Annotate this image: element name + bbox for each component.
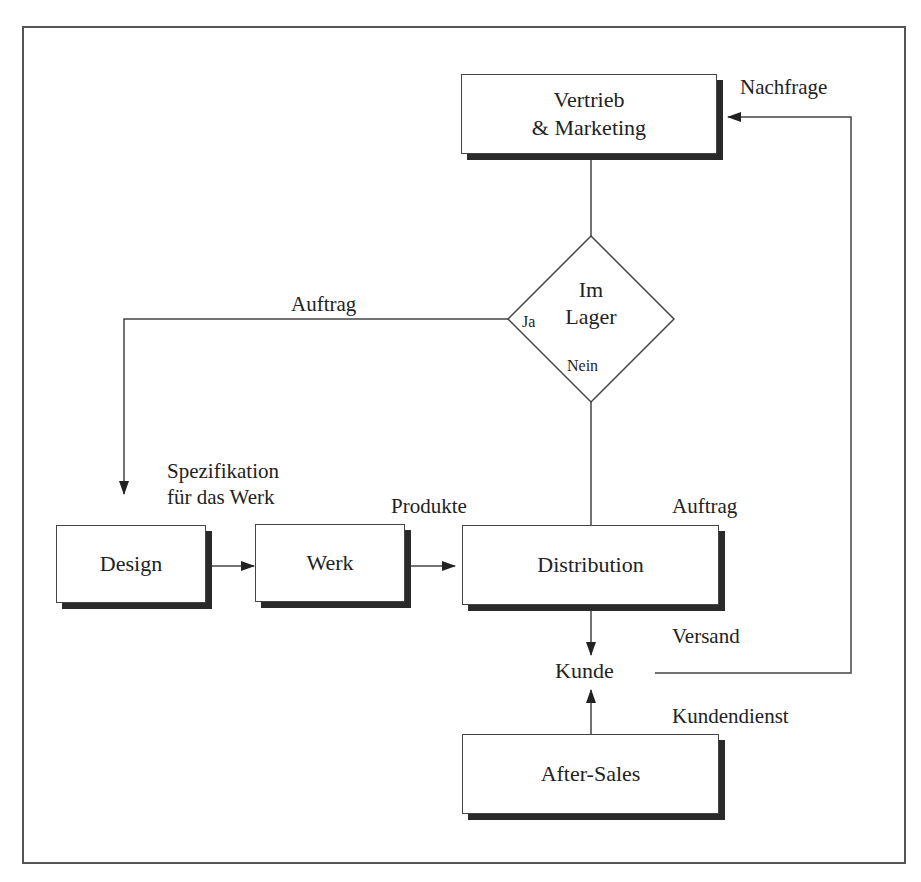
- node-design-label: Design: [100, 550, 162, 578]
- node-distribution-label: Distribution: [537, 551, 643, 579]
- node-werk: Werk: [255, 524, 405, 602]
- node-werk-label: Werk: [306, 549, 353, 577]
- decision-yes-label: Ja: [522, 310, 535, 334]
- label-produkte: Produkte: [391, 494, 467, 518]
- node-vertrieb-line2: & Marketing: [532, 114, 646, 142]
- label-auftrag-right: Auftrag: [672, 494, 737, 518]
- decision-line2: Lager: [546, 303, 636, 330]
- label-versand: Versand: [672, 624, 740, 648]
- node-vertrieb-marketing: Vertrieb & Marketing: [461, 74, 717, 154]
- label-kundendienst: Kundendienst: [672, 704, 789, 728]
- node-after-sales-label: After-Sales: [541, 760, 641, 788]
- decision-line1: Im: [546, 276, 636, 303]
- label-spezifikation: Spezifikation für das Werk: [167, 458, 279, 510]
- node-design: Design: [56, 525, 206, 603]
- decision-label: Im Lager: [546, 276, 636, 330]
- label-auftrag-left: Auftrag: [291, 292, 356, 316]
- node-kunde: Kunde: [555, 659, 614, 683]
- label-spezifikation-line2: für das Werk: [167, 484, 279, 510]
- node-distribution: Distribution: [462, 525, 719, 605]
- node-vertrieb-line1: Vertrieb: [554, 86, 625, 114]
- decision-no-label: Nein: [567, 354, 598, 378]
- label-nachfrage: Nachfrage: [740, 75, 827, 99]
- label-spezifikation-line1: Spezifikation: [167, 458, 279, 484]
- node-after-sales: After-Sales: [462, 734, 719, 814]
